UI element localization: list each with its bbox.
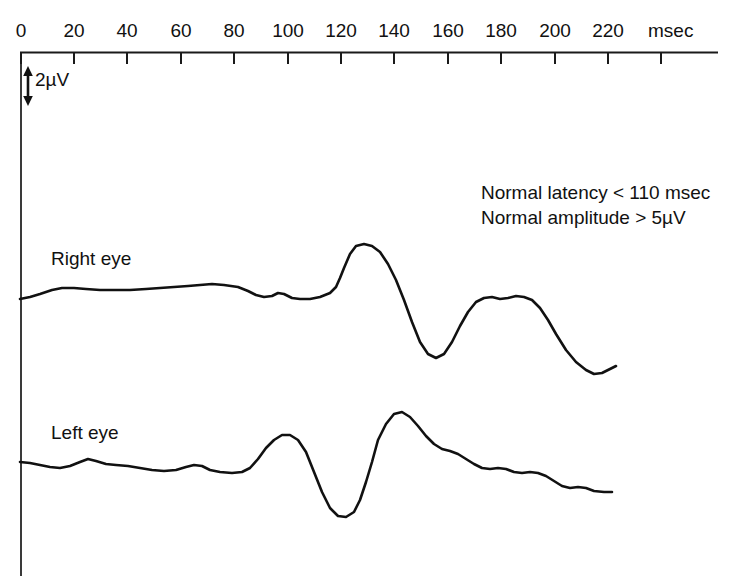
- vep-figure: 0 20 40 60 80 100 120 140 160 180 200 22…: [0, 0, 755, 584]
- tick-label-0: 0: [16, 21, 27, 40]
- note-latency: Normal latency < 110 msec: [481, 180, 710, 205]
- waveform-plot: [0, 0, 755, 584]
- amplitude-scale-label: 2µV: [35, 70, 69, 89]
- tick-label-40: 40: [116, 21, 137, 40]
- tick-label-120: 120: [325, 21, 357, 40]
- tick-label-180: 180: [485, 21, 517, 40]
- tick-label-160: 160: [432, 21, 464, 40]
- normal-values-note: Normal latency < 110 msec Normal amplitu…: [481, 180, 710, 230]
- tick-label-100: 100: [272, 21, 304, 40]
- tick-label-80: 80: [223, 21, 244, 40]
- tick-label-20: 20: [63, 21, 84, 40]
- trace-label-left-eye: Left eye: [51, 423, 119, 442]
- tick-label-60: 60: [170, 21, 191, 40]
- note-amplitude: Normal amplitude > 5µV: [481, 205, 710, 230]
- x-axis-unit-label: msec: [648, 21, 693, 40]
- tick-label-200: 200: [539, 21, 571, 40]
- tick-label-140: 140: [378, 21, 410, 40]
- tick-label-220: 220: [592, 21, 624, 40]
- trace-label-right-eye: Right eye: [51, 249, 131, 268]
- x-axis-ticks: [21, 52, 661, 64]
- double-arrow-vertical-icon: [23, 66, 33, 106]
